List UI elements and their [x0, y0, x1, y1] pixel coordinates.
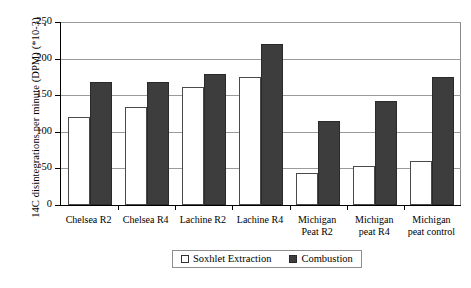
legend-label: Soxhlet Extraction	[193, 253, 271, 264]
x-axis-tick-mark	[232, 205, 233, 210]
bar-combustion	[90, 82, 112, 205]
x-axis-category-label: Michiganpeat R4	[346, 214, 403, 238]
y-axis-tick-label: 250	[14, 16, 52, 27]
x-axis-tick-mark	[175, 205, 176, 210]
x-axis-tick-mark	[404, 205, 405, 210]
bar-soxhlet	[410, 161, 432, 205]
y-axis-tick-label: 50	[14, 162, 52, 173]
x-axis-category-label: Chelsea R2	[60, 214, 117, 226]
legend-label: Combustion	[301, 253, 352, 264]
x-axis-category-label-line: Michigan	[289, 214, 346, 226]
hollow-square-icon	[181, 255, 189, 263]
legend-entry: Combustion	[289, 253, 352, 264]
bar-chart-figure: 14C disintegrations per minute (DPM) (*1…	[0, 0, 471, 288]
x-axis-category-label: MichiganPeat R2	[289, 214, 346, 238]
x-axis-category-label-line: Chelsea R4	[117, 214, 174, 226]
y-axis-tick-label: 150	[14, 89, 52, 100]
bar-combustion	[261, 44, 283, 205]
x-axis-category-label: Lachine R4	[231, 214, 288, 226]
x-axis-tick-mark	[118, 205, 119, 210]
x-axis-category-label: Chelsea R4	[117, 214, 174, 226]
bar-soxhlet	[353, 166, 375, 205]
x-axis-category-label: Michiganpeat control	[403, 214, 460, 238]
chart-legend: Soxhlet ExtractionCombustion	[172, 250, 362, 268]
x-axis-tick-mark	[347, 205, 348, 210]
y-axis-title: 14C disintegrations per minute (DPM) (*1…	[30, 13, 41, 223]
bar-combustion	[432, 77, 454, 205]
x-axis-category-label-line: Lachine R4	[231, 214, 288, 226]
x-axis-category-label-line: Lachine R2	[174, 214, 231, 226]
filled-square-icon	[289, 255, 297, 263]
y-axis-tick-label: 100	[14, 126, 52, 137]
y-axis-tick-label: 0	[14, 199, 52, 210]
bar-soxhlet	[182, 87, 204, 205]
plot-area	[60, 22, 461, 206]
bar-combustion	[318, 121, 340, 205]
legend-entry: Soxhlet Extraction	[181, 253, 271, 264]
x-axis-category-label-line: Chelsea R2	[60, 214, 117, 226]
y-axis-tick-label: 200	[14, 53, 52, 64]
gridline	[61, 22, 461, 23]
x-axis-category-label-line: peat control	[403, 226, 460, 238]
bar-soxhlet	[125, 107, 147, 205]
x-axis-category-label: Lachine R2	[174, 214, 231, 226]
bar-combustion	[147, 82, 169, 205]
bar-soxhlet	[296, 173, 318, 205]
bar-soxhlet	[68, 117, 90, 205]
bar-combustion	[375, 101, 397, 205]
bar-combustion	[204, 74, 226, 205]
x-axis-category-label-line: Michigan	[403, 214, 460, 226]
x-axis-tick-mark	[290, 205, 291, 210]
x-axis-category-label-line: peat R4	[346, 226, 403, 238]
plot-frame-right	[460, 22, 461, 205]
x-axis-category-label-line: Peat R2	[289, 226, 346, 238]
x-axis-category-label-line: Michigan	[346, 214, 403, 226]
bar-soxhlet	[239, 77, 261, 205]
